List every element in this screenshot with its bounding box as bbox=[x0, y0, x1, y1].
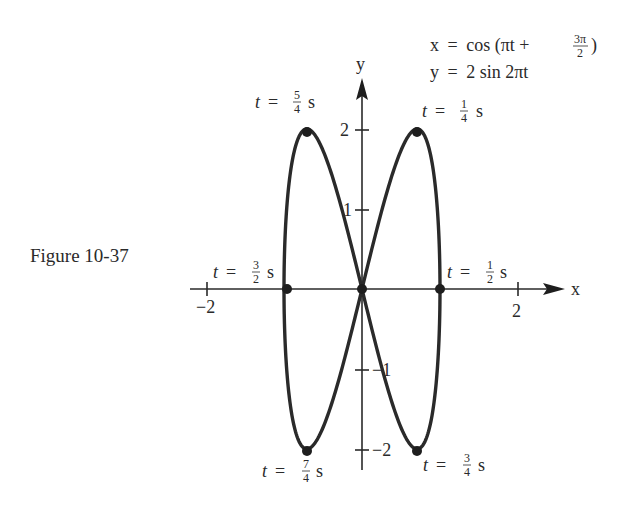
figure-canvas: x = cos (πt + 3π 2 ) y = 2 sin 2πt Figur… bbox=[0, 0, 622, 511]
figure-caption: Figure 10-37 bbox=[30, 245, 129, 266]
svg-text:3: 3 bbox=[253, 258, 259, 272]
svg-text:s: s bbox=[476, 101, 483, 121]
x-tick-label-neg2: −2 bbox=[196, 297, 215, 317]
label-t-7-4: t = 7 4 s bbox=[262, 457, 323, 485]
svg-text:4: 4 bbox=[303, 471, 309, 485]
svg-text:=: = bbox=[268, 92, 278, 112]
svg-text:t: t bbox=[255, 92, 261, 112]
svg-text:1: 1 bbox=[487, 258, 493, 272]
x-eq-frac-num: 3π bbox=[574, 32, 586, 46]
svg-text:s: s bbox=[500, 262, 507, 282]
svg-text:=: = bbox=[436, 455, 446, 475]
svg-text:t: t bbox=[262, 461, 268, 481]
svg-text:t: t bbox=[423, 455, 429, 475]
label-t-3-2: t = 3 2 s bbox=[213, 258, 274, 286]
svg-text:s: s bbox=[267, 262, 274, 282]
y-axis-label: y bbox=[356, 54, 365, 74]
svg-text:t: t bbox=[422, 101, 428, 121]
marked-points bbox=[282, 127, 445, 456]
point-t-1-2 bbox=[435, 284, 445, 294]
label-t-1-2: t = 1 2 s bbox=[447, 258, 507, 286]
y-tick-label-2: 2 bbox=[340, 120, 349, 140]
point-t-1-4 bbox=[412, 127, 422, 137]
svg-text:s: s bbox=[316, 461, 323, 481]
svg-text:=: = bbox=[435, 101, 445, 121]
label-t-3-4: t = 3 4 s bbox=[423, 451, 485, 479]
svg-text:=: = bbox=[226, 262, 236, 282]
point-t-3-2 bbox=[282, 284, 292, 294]
equations: x = cos (πt + 3π 2 ) y = 2 sin 2πt bbox=[430, 32, 597, 82]
svg-text:t: t bbox=[447, 262, 453, 282]
svg-text:=: = bbox=[460, 262, 470, 282]
svg-text:5: 5 bbox=[294, 88, 300, 102]
svg-text:4: 4 bbox=[461, 111, 467, 125]
svg-text:=: = bbox=[275, 461, 285, 481]
y-equation: y = 2 sin 2πt bbox=[430, 62, 528, 82]
svg-text:7: 7 bbox=[303, 457, 309, 471]
svg-text:s: s bbox=[308, 92, 315, 112]
svg-text:t: t bbox=[213, 262, 219, 282]
x-eq-close: ) bbox=[591, 35, 597, 56]
svg-text:2: 2 bbox=[253, 272, 259, 286]
svg-text:s: s bbox=[478, 455, 485, 475]
svg-text:4: 4 bbox=[294, 102, 300, 116]
point-t-5-4 bbox=[302, 127, 312, 137]
label-t-5-4: t = 5 4 s bbox=[255, 88, 315, 116]
svg-text:3: 3 bbox=[464, 451, 470, 465]
svg-text:1: 1 bbox=[461, 97, 467, 111]
x-eq-frac-den: 2 bbox=[577, 46, 583, 60]
point-t-3-4 bbox=[412, 446, 422, 456]
y-tick-label-neg2: −2 bbox=[372, 440, 391, 460]
point-origin bbox=[357, 284, 367, 294]
x-axis-label: x bbox=[571, 279, 580, 299]
svg-text:4: 4 bbox=[464, 465, 470, 479]
point-t-7-4 bbox=[302, 446, 312, 456]
svg-text:2: 2 bbox=[487, 272, 493, 286]
x-equation: x = cos (πt + bbox=[430, 35, 529, 56]
label-t-1-4: t = 1 4 s bbox=[422, 97, 483, 125]
x-tick-label-2: 2 bbox=[512, 301, 521, 321]
axes: x y −2 2 2 1 −1 −2 bbox=[190, 54, 580, 470]
